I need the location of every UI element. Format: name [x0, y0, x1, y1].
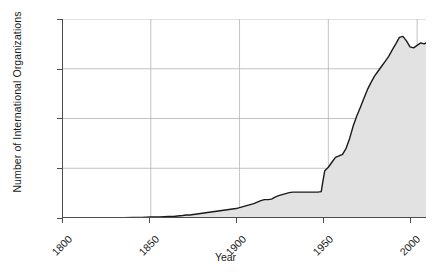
y-axis-title: Number of International Organizations: [11, 0, 23, 217]
plot-area: [62, 19, 426, 218]
x-tick-mark-1950: [323, 218, 324, 223]
area-fill: [62, 36, 426, 218]
chart-plot-svg: [62, 19, 426, 218]
x-tick-mark-1850: [149, 218, 150, 223]
x-tick-mark-1800: [62, 218, 63, 223]
x-axis-title: Year: [0, 251, 435, 263]
x-tick-mark-1900: [236, 218, 237, 223]
x-axis-title-text: Year: [215, 251, 236, 263]
x-tick-mark-2000: [410, 218, 411, 223]
chart-container: Number of International Organizations 40…: [0, 0, 435, 274]
